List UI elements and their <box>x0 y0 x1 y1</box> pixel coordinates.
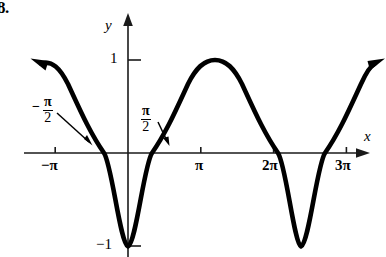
curve-right-arrowhead <box>368 59 386 71</box>
x-tick-label-pi: π <box>195 157 203 174</box>
x-tick-label-2pi: 2π <box>262 157 278 174</box>
y-axis-arrowhead <box>123 13 133 26</box>
x-axis-label: x <box>364 128 371 145</box>
y-axis-label: y <box>105 17 112 34</box>
curve-left-arrowhead <box>31 59 49 71</box>
x-tick-label-3pi: 3π <box>335 157 351 174</box>
callout-numerator: π <box>43 95 53 109</box>
x-axis-arrowhead <box>356 148 370 158</box>
callout-label-half-pi: π 2 <box>141 104 151 134</box>
callout-numerator: π <box>141 104 151 118</box>
y-tick-label-negative-one: −1 <box>96 236 112 253</box>
callout-denominator: 2 <box>43 111 53 125</box>
y-tick-label-one: 1 <box>110 50 118 67</box>
callout-label-neg-half-pi: − π 2 <box>43 95 53 125</box>
x-tick-label-neg-pi: −π <box>41 157 58 174</box>
callout-neg-sign: − <box>32 100 40 114</box>
callout-arrowhead-half-pi <box>163 137 170 147</box>
callout-denominator: 2 <box>141 120 151 134</box>
graph-canvas <box>0 0 386 257</box>
math-figure: 8. y x 1 −1 −π <box>0 0 386 257</box>
